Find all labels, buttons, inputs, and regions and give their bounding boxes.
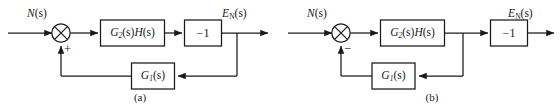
block-minus-one-label: −1 [185,27,221,39]
output-label: EN(s) [508,8,533,21]
input-label: N(s) [27,8,47,20]
summing-junction-sign: − [344,43,351,56]
diagram-b: N(s) EN(s) G2(s)H(s) −1 G1(s) − (b) [280,0,560,112]
summing-junction-sign: + [64,43,71,56]
output-label: EN(s) [222,8,247,21]
caption-b: (b) [402,92,462,103]
diagram-a: N(s) EN(s) G2(s)H(s) −1 G1(s) + (a) [0,0,280,112]
caption-a: (a) [110,92,170,103]
block-g2h-label: G2(s)H(s) [383,27,442,40]
block-g2h-label: G2(s)H(s) [103,27,162,40]
block-g1-label: G1(s) [374,70,414,83]
figure-block-diagram-pair: N(s) EN(s) G2(s)H(s) −1 G1(s) + (a) [0,0,560,112]
block-g1-label: G1(s) [133,70,173,83]
block-minus-one-label: −1 [491,27,527,39]
input-label: N(s) [307,8,327,20]
